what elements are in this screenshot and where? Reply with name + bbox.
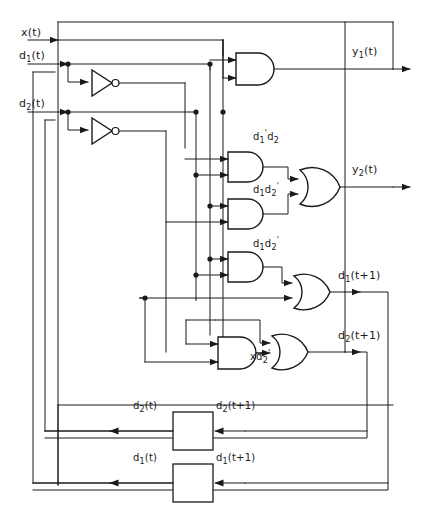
delay-element-d2 — [45, 412, 367, 450]
input-label-d1: d1(t) — [19, 50, 45, 61]
ff-d1-input-label: d1(t+1) — [216, 453, 255, 463]
ff-d2-output-label: d2(t) — [133, 401, 157, 411]
input-label-d2: d2(t) — [19, 98, 45, 109]
junction-dots — [65, 61, 225, 300]
circuit-schematic — [0, 0, 426, 520]
gate-label-and-d1-d2p-lower: d1d2' — [253, 239, 279, 249]
inverter-d1 — [92, 70, 185, 148]
input-label-x: x(t) — [21, 27, 41, 38]
and-gate-d1-d2p-upper — [166, 194, 298, 229]
circuit-diagram-page: x(t) d1(t) d2(t) y1(t) y2(t) d1(t+1) d2(… — [0, 0, 426, 520]
and-gate-d1p-d2 — [185, 152, 298, 182]
delay-element-d1 — [33, 464, 388, 502]
gate-label-and-d1p-d2: d1'd2 — [253, 132, 279, 142]
routing-lines — [140, 298, 215, 362]
ff-d2-input-label: d2(t+1) — [216, 401, 255, 411]
output-label-d1-next: d1(t+1) — [338, 270, 381, 281]
output-label-d2-next: d2(t+1) — [338, 330, 381, 341]
output-label-y1: y1(t) — [352, 46, 378, 57]
gate-label-and-d1-d2p-upper: d1d2' — [253, 185, 279, 195]
gate-label-and-x-d2p: xd2' — [250, 352, 270, 362]
inverter-d2 — [92, 118, 166, 352]
output-label-y2: y2(t) — [352, 164, 378, 175]
feedback-frame — [58, 405, 393, 485]
ff-d1-output-label: d1(t) — [133, 453, 157, 463]
and-gate-y1 — [210, 40, 410, 85]
